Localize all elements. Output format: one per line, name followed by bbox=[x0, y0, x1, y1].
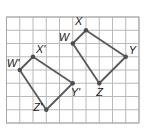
vertex-point bbox=[71, 41, 75, 45]
vertex-label: W' bbox=[7, 57, 20, 69]
vertex-label: W bbox=[59, 31, 71, 43]
vertex-label: Z bbox=[95, 86, 104, 98]
coordinate-grid bbox=[7, 17, 140, 123]
vertex-label: X' bbox=[35, 43, 46, 55]
vertex-label: Y' bbox=[71, 86, 81, 98]
vertex-point bbox=[31, 55, 35, 59]
vertex-point bbox=[124, 55, 128, 59]
vertex-point bbox=[71, 81, 75, 85]
vertex-point bbox=[84, 28, 88, 32]
transformation-diagram: WXYZW'X'Y'Z' bbox=[0, 0, 148, 130]
vertex-label: X bbox=[74, 15, 83, 27]
vertex-point bbox=[44, 108, 48, 112]
vertex-label: Y bbox=[129, 44, 137, 56]
vertex-label: Z' bbox=[32, 101, 43, 113]
vertex-point bbox=[97, 81, 101, 85]
